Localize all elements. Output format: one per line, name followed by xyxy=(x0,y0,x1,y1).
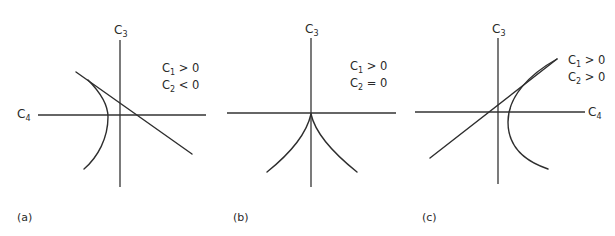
panel-a: C3 C4 C1 > 0 C2 < 0 (a) xyxy=(17,23,206,224)
panel-c-label: (c) xyxy=(422,211,437,224)
panel-b-vertical-axis-label: C3 xyxy=(305,22,318,38)
panel-a-horizontal-axis-label: C4 xyxy=(17,107,30,123)
panel-c-tangent-line xyxy=(430,59,557,158)
panel-a-condition-2: C2 < 0 xyxy=(162,78,199,94)
panel-c-condition-2: C2 > 0 xyxy=(568,70,605,86)
panel-b-cusp-left-branch xyxy=(267,114,311,172)
panel-a-label: (a) xyxy=(17,211,32,224)
panel-b-condition-1: C1 > 0 xyxy=(350,59,387,75)
panel-c-vertical-axis-label: C3 xyxy=(492,22,505,38)
figure: C3 C4 C1 > 0 C2 < 0 (a) C3 C1 > 0 C2 = 0… xyxy=(0,0,615,236)
panel-c-horizontal-axis-label: C4 xyxy=(588,105,601,121)
panel-c: C3 C4 C1 > 0 C2 > 0 (c) xyxy=(415,22,605,224)
panel-b-condition-2: C2 = 0 xyxy=(350,76,387,92)
panel-b-label: (b) xyxy=(233,211,249,224)
panel-a-vertical-axis-label: C3 xyxy=(114,23,127,39)
panel-b-cusp-right-branch xyxy=(311,114,357,172)
panel-a-condition-1: C1 > 0 xyxy=(162,61,199,77)
panel-a-curve-branch xyxy=(84,80,108,169)
panel-c-curve-branch xyxy=(508,59,557,169)
panel-b: C3 C1 > 0 C2 = 0 (b) xyxy=(227,22,396,224)
panel-c-condition-1: C1 > 0 xyxy=(568,53,605,69)
